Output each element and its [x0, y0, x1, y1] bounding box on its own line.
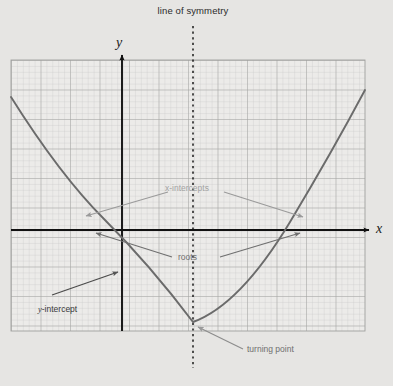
y-axis-label: y	[116, 36, 122, 50]
x-intercepts-label: x-intercepts	[165, 184, 209, 193]
turning-point-label: turning point	[247, 345, 294, 354]
figure-root: line of symmetry y x x-intercepts roots …	[0, 0, 393, 386]
y-intercept-label: y-intercept	[38, 305, 77, 314]
figure-title: line of symmetry	[0, 6, 386, 16]
roots-label: roots	[178, 253, 197, 262]
parabola-diagram	[0, 0, 393, 386]
x-axis-label: x	[376, 222, 382, 236]
y-intercept-label-rest: -intercept	[42, 304, 77, 314]
